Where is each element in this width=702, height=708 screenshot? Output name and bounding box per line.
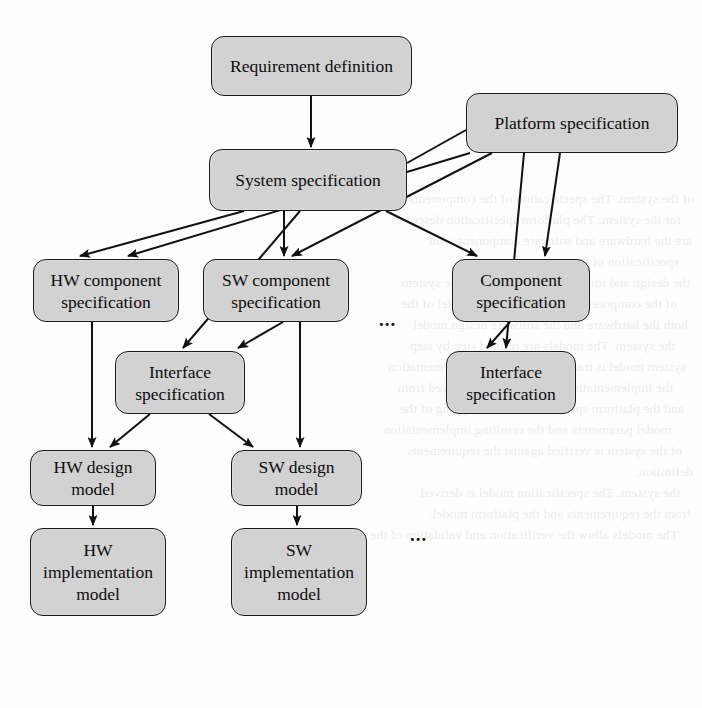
node-system-specification[interactable]: System specification bbox=[209, 149, 407, 211]
node-label: Requirement definition bbox=[218, 55, 405, 77]
process-diagram: of the system. The specification of the … bbox=[0, 0, 702, 708]
node-sw-design-model[interactable]: SW design model bbox=[231, 450, 362, 506]
node-hw-implementation-model[interactable]: HW implementation model bbox=[30, 528, 166, 616]
node-requirement-definition[interactable]: Requirement definition bbox=[211, 36, 412, 96]
node-label: HW implementation model bbox=[37, 539, 159, 605]
node-label: Interface specification bbox=[122, 361, 238, 405]
node-label: HW component specification bbox=[40, 269, 172, 313]
node-label: SW design model bbox=[238, 456, 355, 500]
bleed-line: are the hardware and software components… bbox=[429, 230, 692, 251]
node-component-specification[interactable]: Component specification bbox=[452, 259, 590, 322]
node-interface-specification-right[interactable]: Interface specification bbox=[446, 351, 576, 414]
edge-component-to-interface-right bbox=[487, 322, 510, 348]
node-sw-implementation-model[interactable]: SW implementation model bbox=[231, 528, 367, 616]
edge-platform-to-system bbox=[407, 130, 466, 163]
ellipsis-component-row: ... bbox=[379, 315, 396, 325]
bleed-line: from the requirements and the platform m… bbox=[429, 503, 691, 524]
edge-system-to-hw-comp bbox=[80, 211, 244, 256]
node-label: System specification bbox=[216, 169, 400, 191]
edge-platform-to-component bbox=[545, 153, 560, 256]
node-label: HW design model bbox=[37, 456, 149, 500]
node-label: SW component specification bbox=[210, 269, 342, 313]
node-label: SW implementation model bbox=[238, 539, 360, 605]
edge-interface-mid-to-sw-design bbox=[209, 414, 253, 447]
node-interface-specification-middle[interactable]: Interface specification bbox=[115, 351, 245, 414]
edge-interface-mid-to-hw-design bbox=[110, 414, 150, 447]
ellipsis-design-row: ... bbox=[410, 530, 427, 540]
bleed-line: definition. bbox=[635, 461, 693, 482]
edge-system-to-component bbox=[386, 211, 477, 256]
node-hw-design-model[interactable]: HW design model bbox=[30, 450, 156, 506]
node-platform-specification[interactable]: Platform specification bbox=[466, 93, 678, 153]
node-hw-component-specification[interactable]: HW component specification bbox=[33, 259, 179, 322]
bleed-line: of the system is verified against the re… bbox=[407, 440, 682, 461]
node-label: Interface specification bbox=[453, 361, 569, 405]
node-sw-component-specification[interactable]: SW component specification bbox=[203, 259, 349, 322]
bleed-line: model parameters and the resulting imple… bbox=[383, 419, 671, 440]
edge-sw-comp-to-interface-mid bbox=[238, 322, 283, 348]
bleed-line: the system. The specification model is d… bbox=[420, 482, 680, 503]
node-label: Platform specification bbox=[473, 112, 671, 134]
bleed-line: of the system. The specification of the … bbox=[396, 188, 694, 209]
bleed-line: for the system. The platform specificati… bbox=[391, 209, 681, 230]
node-label: Component specification bbox=[459, 269, 583, 313]
